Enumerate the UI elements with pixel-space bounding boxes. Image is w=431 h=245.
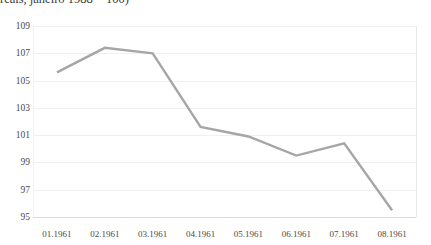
x-axis-tick-label: 01.1961 — [42, 228, 71, 240]
y-axis-tick-label: 105 — [4, 76, 30, 86]
x-axis-tick-label: 05.1961 — [234, 228, 263, 240]
y-axis-tick-label: 95 — [4, 212, 30, 222]
y-axis-tick-label: 107 — [4, 48, 30, 58]
y-axis-tick-label: 99 — [4, 157, 30, 167]
y-axis-labels: 109107105103101999795 — [0, 0, 30, 245]
x-axis-tick-label: 04.1961 — [186, 228, 215, 240]
x-axis-line — [33, 217, 416, 218]
data-series-line — [33, 26, 416, 217]
y-axis-tick-label: 97 — [4, 185, 30, 195]
x-axis-tick-label: 07.1961 — [330, 228, 359, 240]
x-axis-tick-label: 03.1961 — [138, 228, 167, 240]
chart-title: reais, janeiro 1988 = 100) — [0, 0, 240, 7]
x-axis-labels: 01.196102.196103.196104.196105.196106.19… — [33, 228, 416, 242]
y-axis-tick-label: 109 — [4, 21, 30, 31]
line-chart: reais, janeiro 1988 = 100) 1091071051031… — [0, 0, 431, 245]
x-axis-tick-label: 06.1961 — [282, 228, 311, 240]
x-axis-tick-label: 02.1961 — [90, 228, 119, 240]
y-axis-tick-label: 101 — [4, 130, 30, 140]
x-axis-tick-label: 08.1961 — [377, 228, 406, 240]
y-axis-tick-label: 103 — [4, 103, 30, 113]
